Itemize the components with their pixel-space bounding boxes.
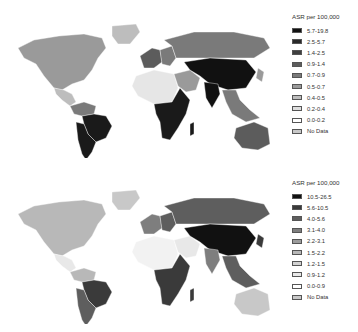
world-map-bottom <box>14 184 276 324</box>
legend-label: 3.1-4.0 <box>307 227 325 233</box>
legend-swatch <box>292 28 302 33</box>
legend-top: ASR per 100,000 5.7-19.82.5-5.71.4-2.50.… <box>292 13 358 137</box>
legend-swatch <box>292 73 302 78</box>
legend-label: 1.4-2.5 <box>307 50 325 56</box>
legend-item: 0.2-0.4 <box>292 103 358 114</box>
legend-item: 4.0-5.6 <box>292 213 358 224</box>
legend-item: 10.5-26.5 <box>292 191 358 202</box>
region-russia <box>164 32 270 58</box>
legend-label: 1.5-2.2 <box>307 250 325 256</box>
legend-swatch <box>292 129 302 134</box>
legend-item: No Data <box>292 292 358 303</box>
region-greenland <box>112 190 140 210</box>
region-north-america <box>18 200 106 256</box>
legend-swatch <box>292 95 302 100</box>
legend-label: 5.7-19.8 <box>307 28 328 34</box>
region-southeast-asia <box>222 256 260 288</box>
region-north-africa <box>132 236 178 270</box>
region-madagascar <box>190 288 194 302</box>
region-southeast-asia <box>222 90 260 122</box>
legend-label: 4.0-5.6 <box>307 216 325 222</box>
legend-label: No Data <box>307 128 328 134</box>
legend-label: 2.5-5.7 <box>307 39 325 45</box>
region-europe-west <box>140 214 162 234</box>
legend-title: ASR per 100,000 <box>292 179 358 186</box>
region-india <box>204 248 220 274</box>
legend-item: 0.9-1.4 <box>292 59 358 70</box>
legend-bottom: ASR per 100,000 10.5-26.55.6-10.54.0-5.6… <box>292 179 358 303</box>
legend-label: 5.6-10.5 <box>307 205 328 211</box>
legend-label: 0.9-1.4 <box>307 61 325 67</box>
legend-label: 0.0-0.9 <box>307 283 325 289</box>
legend-swatch <box>292 228 302 233</box>
region-central-america <box>54 254 76 272</box>
legend-swatch <box>292 216 302 221</box>
legend-swatch <box>292 295 302 300</box>
legend-item: 5.6-10.5 <box>292 202 358 213</box>
map-panel-bottom: ASR per 100,000 10.5-26.55.6-10.54.0-5.6… <box>0 166 358 332</box>
legend-swatch <box>292 239 302 244</box>
legend-swatch <box>292 261 302 266</box>
legend-item: 2.2-3.1 <box>292 236 358 247</box>
legend-label: No Data <box>307 294 328 300</box>
map-panel-top: ASR per 100,000 5.7-19.82.5-5.71.4-2.50.… <box>0 0 358 166</box>
world-map-top <box>14 18 276 158</box>
legend-item: 0.4-0.5 <box>292 92 358 103</box>
legend-swatch <box>292 39 302 44</box>
region-europe-west <box>140 48 162 68</box>
region-south-america-north <box>70 268 96 282</box>
legend-swatch <box>292 205 302 210</box>
legend-swatch <box>292 250 302 255</box>
legend-item: 0.0-0.2 <box>292 115 358 126</box>
region-north-africa <box>132 70 178 104</box>
legend-label: 2.2-3.1 <box>307 238 325 244</box>
region-japan <box>256 68 264 82</box>
legend-swatch <box>292 272 302 277</box>
region-australia <box>234 122 270 150</box>
legend-items: 5.7-19.82.5-5.71.4-2.50.9-1.40.7-0.90.5-… <box>292 25 358 137</box>
legend-item: No Data <box>292 126 358 137</box>
region-north-america <box>18 34 106 90</box>
region-madagascar <box>190 122 194 136</box>
region-russia <box>164 198 270 224</box>
legend-label: 0.0-0.2 <box>307 117 325 123</box>
legend-item: 0.7-0.9 <box>292 70 358 81</box>
legend-swatch <box>292 62 302 67</box>
legend-items: 10.5-26.55.6-10.54.0-5.63.1-4.02.2-3.11.… <box>292 191 358 303</box>
legend-item: 0.0-0.9 <box>292 281 358 292</box>
region-japan <box>256 234 264 248</box>
legend-label: 0.4-0.5 <box>307 95 325 101</box>
region-central-america <box>54 88 76 106</box>
legend-label: 0.5-0.7 <box>307 84 325 90</box>
region-india <box>204 82 220 108</box>
legend-item: 0.9-1.2 <box>292 269 358 280</box>
legend-swatch <box>292 50 302 55</box>
legend-swatch <box>292 194 302 199</box>
legend-item: 0.5-0.7 <box>292 81 358 92</box>
legend-label: 10.5-26.5 <box>307 194 332 200</box>
legend-item: 1.5-2.2 <box>292 247 358 258</box>
legend-item: 1.4-2.5 <box>292 47 358 58</box>
legend-label: 0.7-0.9 <box>307 72 325 78</box>
legend-item: 5.7-19.8 <box>292 25 358 36</box>
legend-swatch <box>292 106 302 111</box>
legend-label: 0.2-0.4 <box>307 106 325 112</box>
region-greenland <box>112 24 140 44</box>
region-australia <box>234 288 270 316</box>
legend-title: ASR per 100,000 <box>292 13 358 20</box>
legend-label: 0.9-1.2 <box>307 272 325 278</box>
legend-label: 1.2-1.5 <box>307 261 325 267</box>
region-south-america-north <box>70 102 96 116</box>
legend-item: 1.2-1.5 <box>292 258 358 269</box>
legend-item: 3.1-4.0 <box>292 225 358 236</box>
legend-swatch <box>292 118 302 123</box>
legend-swatch <box>292 284 302 289</box>
legend-swatch <box>292 84 302 89</box>
legend-item: 2.5-5.7 <box>292 36 358 47</box>
